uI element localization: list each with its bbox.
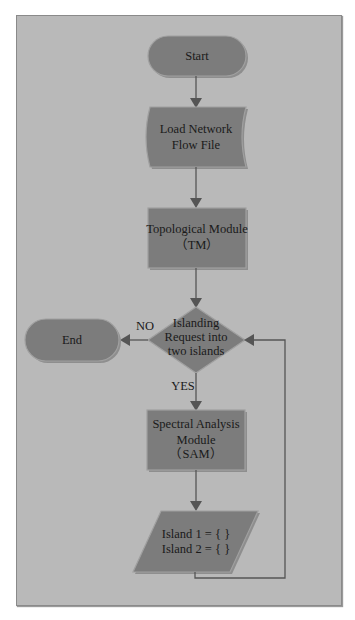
arrow-down-icon (190, 501, 202, 511)
arrow-left-icon (244, 334, 254, 346)
topological-module-node: Topological Module （TM） (146, 208, 248, 270)
spectral-analysis-module-node: Spectral Analysis Module （SAM） (147, 410, 247, 472)
end-label: End (62, 333, 83, 347)
start-label: Start (185, 49, 209, 63)
flowchart: Start Load Network Flow File Topological… (0, 0, 355, 620)
tm-label-line1: Topological Module (146, 222, 248, 236)
island1-label: Island 1 = { } (162, 527, 230, 541)
arrow-left-icon (120, 334, 130, 346)
load-label-line2: Flow File (172, 138, 221, 152)
arrow-down-icon (190, 198, 202, 208)
load-label-line1: Load Network (160, 122, 233, 136)
decision-label-line3: two islands (168, 344, 225, 358)
sam-label-line3: （SAM） (169, 447, 222, 461)
sam-label-line1: Spectral Analysis (152, 417, 239, 431)
no-edge-label: NO (136, 319, 154, 333)
decision-label-line2: Request into (165, 330, 228, 344)
yes-edge-label: YES (171, 379, 195, 393)
start-node: Start (148, 36, 248, 78)
end-node: End (25, 319, 121, 363)
decision-label-line1: Islanding (173, 316, 220, 330)
islands-output-node: Island 1 = { } Island 2 = { } (133, 511, 260, 574)
sam-label-line2: Module (177, 433, 216, 447)
load-network-node: Load Network Flow File (146, 107, 248, 169)
tm-label-line2: （TM） (175, 238, 220, 252)
island2-label: Island 2 = { } (162, 542, 230, 556)
islanding-decision-node: Islanding Request into two islands (148, 307, 245, 373)
